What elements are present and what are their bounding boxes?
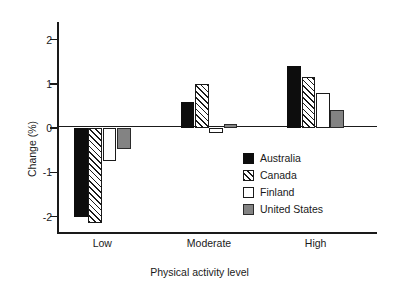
legend-label-united-states: United States xyxy=(260,204,323,215)
legend-item-australia: Australia xyxy=(243,150,323,167)
legend-label-finland: Finland xyxy=(260,187,294,198)
legend-swatch-finland xyxy=(243,187,254,198)
legend-swatch-united-states xyxy=(243,204,254,215)
legend-swatch-canada xyxy=(243,170,254,181)
plot-area: 210-1-2 xyxy=(57,22,377,232)
bar-high-united-states xyxy=(330,110,344,128)
legend-item-finland: Finland xyxy=(243,184,323,201)
y-tick-label-3: -1 xyxy=(43,167,52,178)
legend-label-canada: Canada xyxy=(260,170,297,181)
y-tick-label-4: -2 xyxy=(43,211,52,222)
legend-item-united-states: United States xyxy=(243,201,323,218)
x-category-label-high: High xyxy=(305,238,327,249)
bar-high-finland xyxy=(316,93,330,128)
bar-high-canada xyxy=(302,77,316,128)
legend-item-canada: Canada xyxy=(243,167,323,184)
bar-low-finland xyxy=(103,128,117,161)
x-category-label-low: Low xyxy=(93,238,112,249)
bar-low-united-states xyxy=(117,128,131,149)
bar-moderate-australia xyxy=(181,102,195,129)
bar-moderate-canada xyxy=(195,84,209,128)
x-axis-title: Physical activity level xyxy=(0,266,399,278)
legend-swatch-australia xyxy=(243,153,254,164)
bar-chart-figure: Change (%) 210-1-2 LowModerateHigh Physi… xyxy=(0,0,399,298)
y-tick-label-0: 2 xyxy=(46,34,52,45)
y-tick-label-2: 0 xyxy=(46,123,52,134)
y-axis-title: Change (%) xyxy=(26,121,38,177)
x-axis-line xyxy=(57,232,377,234)
bar-low-canada xyxy=(88,128,102,223)
y-tick-label-1: 1 xyxy=(46,79,52,90)
bar-moderate-united-states xyxy=(224,124,238,128)
bar-low-australia xyxy=(74,128,88,216)
bar-moderate-finland xyxy=(209,128,223,132)
bar-high-australia xyxy=(287,66,301,128)
x-category-label-moderate: Moderate xyxy=(187,238,231,249)
legend: AustraliaCanadaFinlandUnited States xyxy=(243,150,323,218)
legend-label-australia: Australia xyxy=(260,153,301,164)
